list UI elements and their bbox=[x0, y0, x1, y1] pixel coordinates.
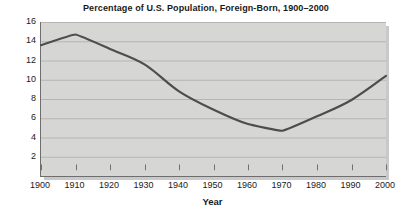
y-tick-label: 2 bbox=[2, 152, 36, 161]
y-tick-label: 4 bbox=[2, 133, 36, 142]
x-tick-label: 1970 bbox=[271, 180, 291, 190]
y-tick-label: 12 bbox=[2, 56, 36, 65]
y-tick-label: 6 bbox=[2, 113, 36, 122]
x-tick-label: 1940 bbox=[168, 180, 188, 190]
data-line bbox=[41, 35, 386, 131]
x-tick-label: 1900 bbox=[30, 180, 50, 190]
y-tick-label: 10 bbox=[2, 75, 36, 84]
x-tick-label: 1960 bbox=[237, 180, 257, 190]
x-tick-label: 1990 bbox=[340, 180, 360, 190]
y-axis-tick-labels: 246810121416 bbox=[0, 22, 36, 176]
data-line-series bbox=[41, 22, 386, 176]
y-tick-label: 8 bbox=[2, 94, 36, 103]
x-tick-label: 1950 bbox=[202, 180, 222, 190]
x-tick-label: 2000 bbox=[375, 180, 395, 190]
x-tick-label: 1980 bbox=[306, 180, 326, 190]
chart-title: Percentage of U.S. Population, Foreign-B… bbox=[0, 3, 412, 13]
chart-figure: Percentage of U.S. Population, Foreign-B… bbox=[0, 0, 412, 221]
x-axis-title: Year bbox=[40, 196, 385, 207]
plot-area bbox=[40, 22, 386, 177]
plot-wrapper bbox=[40, 22, 385, 176]
y-tick-label: 14 bbox=[2, 36, 36, 45]
x-tick-label: 1920 bbox=[99, 180, 119, 190]
x-tick-label: 1930 bbox=[133, 180, 153, 190]
x-axis-tick-labels: 1900191019201930194019501960197019801990… bbox=[40, 180, 385, 194]
x-tick-label: 1910 bbox=[64, 180, 84, 190]
y-tick-label: 16 bbox=[2, 17, 36, 26]
